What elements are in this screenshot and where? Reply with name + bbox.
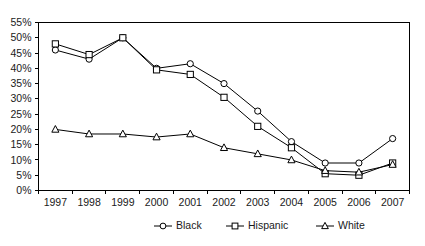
x-axis-tick-label: 1997 xyxy=(44,196,68,208)
y-axis-tick-label: 35% xyxy=(10,77,31,89)
data-point-black-2007 xyxy=(390,135,396,141)
x-axis-tick-labels: 1997199819992000200120022003200420052006… xyxy=(44,196,405,208)
chart-legend: BlackHispanicWhite xyxy=(154,219,365,231)
data-point-hispanic-2002 xyxy=(221,94,227,100)
data-point-white-1999 xyxy=(119,130,126,137)
x-axis-tick-label: 2006 xyxy=(347,196,371,208)
data-point-black-2004 xyxy=(288,139,294,145)
y-axis-tick-label: 55% xyxy=(10,16,31,28)
data-point-hispanic-2001 xyxy=(187,71,193,77)
data-series-layer xyxy=(52,35,396,179)
legend-label: Hispanic xyxy=(248,219,288,231)
y-axis-tick-label: 40% xyxy=(10,62,31,74)
series-hispanic xyxy=(52,35,395,179)
legend-item-white[interactable]: White xyxy=(316,219,365,231)
data-point-black-2005 xyxy=(322,160,328,166)
y-axis-tick-label: 5% xyxy=(16,169,31,181)
y-axis-tick-label: 15% xyxy=(10,138,31,150)
data-point-black-2003 xyxy=(255,108,261,114)
data-point-white-1997 xyxy=(52,126,59,133)
y-axis-tick-label: 10% xyxy=(10,154,31,166)
series-line-hispanic xyxy=(55,38,392,175)
legend-item-black[interactable]: Black xyxy=(154,219,202,231)
x-axis-tick-label: 2003 xyxy=(246,196,270,208)
data-point-black-2006 xyxy=(356,160,362,166)
x-axis-tick-label: 1998 xyxy=(77,196,101,208)
legend-label: Black xyxy=(176,219,202,231)
plot-area-border xyxy=(39,23,410,191)
y-axis-tick-label: 25% xyxy=(10,108,31,120)
x-axis-tick-label: 2000 xyxy=(145,196,169,208)
y-axis-tick-label: 30% xyxy=(10,92,31,104)
y-axis-tick-label: 0% xyxy=(16,184,31,196)
data-point-hispanic-2003 xyxy=(255,123,261,129)
legend-item-hispanic[interactable]: Hispanic xyxy=(226,219,288,231)
y-axis-tick-label: 20% xyxy=(10,123,31,135)
legend-marker-circle-icon xyxy=(160,223,166,229)
y-axis-tick-label: 50% xyxy=(10,31,31,43)
y-axis-tick-marks xyxy=(35,23,39,191)
x-axis-tick-label: 2004 xyxy=(280,196,304,208)
x-axis-tick-label: 1999 xyxy=(111,196,135,208)
x-axis-tick-label: 2005 xyxy=(314,196,338,208)
y-axis-tick-label: 45% xyxy=(10,47,31,59)
legend-marker-square-icon xyxy=(232,223,238,229)
data-point-white-2001 xyxy=(187,130,194,137)
data-point-hispanic-2000 xyxy=(153,67,159,73)
data-point-hispanic-2004 xyxy=(288,145,294,151)
line-chart: 0%5%10%15%20%25%30%35%40%45%50%55% 19971… xyxy=(0,0,425,246)
data-point-hispanic-1998 xyxy=(86,51,92,57)
series-white xyxy=(52,126,396,175)
chart-canvas: 0%5%10%15%20%25%30%35%40%45%50%55% 19971… xyxy=(0,0,425,246)
legend-label: White xyxy=(338,219,365,231)
legend-marker-triangle-icon xyxy=(322,222,329,228)
data-point-hispanic-1997 xyxy=(52,41,58,47)
data-point-black-2002 xyxy=(221,80,227,86)
x-axis-tick-label: 2002 xyxy=(212,196,236,208)
x-axis-tick-label: 2001 xyxy=(179,196,203,208)
x-axis-tick-marks xyxy=(39,191,410,195)
data-point-black-2001 xyxy=(187,61,193,67)
y-axis-tick-labels: 0%5%10%15%20%25%30%35%40%45%50%55% xyxy=(10,16,31,196)
x-axis-tick-label: 2007 xyxy=(381,196,405,208)
data-point-black-1997 xyxy=(52,47,58,53)
data-point-hispanic-1999 xyxy=(120,35,126,41)
